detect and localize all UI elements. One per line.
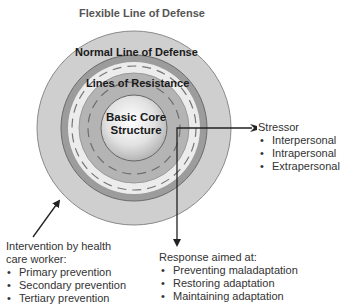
response-list: Preventing maladaptation Restoring adapt… <box>159 264 298 303</box>
intervention-heading-line2: care worker: <box>6 253 126 266</box>
list-item: Preventing maladaptation <box>159 264 298 277</box>
list-item: Restoring adaptation <box>159 277 298 290</box>
response-block: Response aimed at: Preventing maladaptat… <box>159 251 298 303</box>
list-item: Primary prevention <box>6 266 126 279</box>
list-item: Interpersonal <box>258 134 340 147</box>
lines-of-resistance-label: Lines of Resistance <box>86 77 189 89</box>
intervention-list: Primary prevention Secondary prevention … <box>6 266 126 305</box>
list-item: Maintaining adaptation <box>159 290 298 303</box>
basic-core-structure-label: Basic Core Structure <box>106 111 166 137</box>
core-label-line1: Basic Core <box>106 111 166 124</box>
intervention-heading-line1: Intervention by health <box>6 240 126 253</box>
list-item: Tertiary prevention <box>6 292 126 305</box>
normal-line-of-defense-label: Normal Line of Defense <box>75 46 198 58</box>
stressor-list: Interpersonal Intrapersonal Extrapersona… <box>258 134 340 173</box>
list-item: Extrapersonal <box>258 160 340 173</box>
list-item: Intrapersonal <box>258 147 340 160</box>
intervention-block: Intervention by health care worker: Prim… <box>6 240 126 305</box>
intervention-arrow <box>33 201 59 237</box>
stressor-heading: Stressor <box>258 121 340 134</box>
stressor-block: Stressor Interpersonal Intrapersonal Ext… <box>258 121 340 173</box>
response-heading: Response aimed at: <box>159 251 298 264</box>
list-item: Secondary prevention <box>6 279 126 292</box>
flexible-line-of-defense-label: Flexible Line of Defense <box>79 7 205 19</box>
core-label-line2: Structure <box>106 124 166 137</box>
